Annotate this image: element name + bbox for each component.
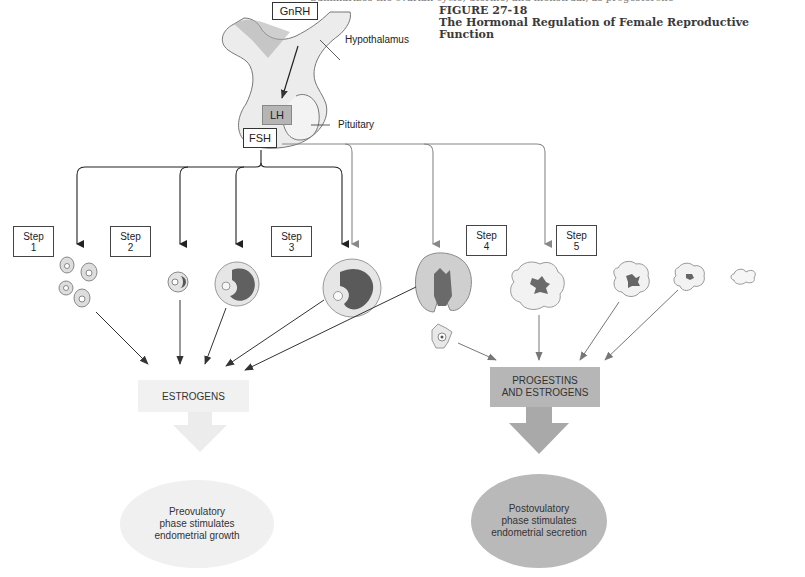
progestin-arrows [458, 290, 678, 360]
fsh-box: FSH [243, 128, 277, 148]
figure-caption: The Hormonal Regulation of Female Reprod… [439, 17, 805, 41]
hypothalamus-label: Hypothalamus [345, 34, 409, 45]
progestins-box: PROGESTINS AND ESTROGENS [490, 367, 600, 407]
primordial-follicles [59, 257, 97, 307]
step-4-box: Step4 [466, 225, 507, 256]
diagram-artwork [0, 0, 805, 577]
running-header: Summarizes the ovarian cycle, uterine, a… [310, 0, 674, 3]
corpus-luteum [511, 262, 565, 309]
regressing-corpus-luteum-2 [674, 263, 704, 290]
step-2-box: Step2 [110, 226, 151, 257]
postovulatory-outcome: Postovulatory phase stimulates endometri… [471, 474, 607, 568]
preovulatory-outcome: Preovulatory phase stimulates endometria… [120, 480, 274, 568]
gnrh-box: GnRH [272, 2, 318, 20]
estrogens-box: ESTROGENS [138, 380, 249, 412]
corpus-albicans [731, 269, 755, 284]
estrogen-outcome-arrow [173, 410, 227, 452]
lh-box: LH [262, 105, 292, 125]
secondary-follicle [215, 262, 259, 306]
hypothalamus-pituitary-illustration [222, 12, 350, 148]
pituitary-label: Pituitary [338, 119, 374, 130]
figure-title: FIGURE 27-18 The Hormonal Regulation of … [439, 5, 805, 41]
released-oocyte [432, 324, 452, 348]
primary-follicle [168, 272, 188, 292]
progestin-outcome-arrow [509, 407, 569, 454]
step-5-box: Step5 [556, 225, 597, 256]
step-3-box: Step3 [271, 226, 312, 257]
step-1-box: Step1 [13, 226, 54, 257]
ovulating-follicle [415, 253, 471, 312]
regressing-corpus-luteum-1 [614, 261, 649, 296]
